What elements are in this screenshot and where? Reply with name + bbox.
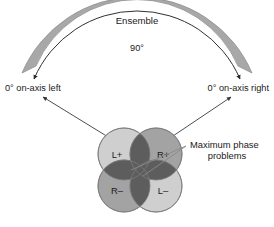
lobe-label-bottom-right: L–: [158, 185, 169, 196]
lobe-label-top-left: L+: [112, 149, 123, 160]
on-axis-left-label: 0° on-axis left: [5, 83, 61, 93]
callout-line-2: problems: [208, 150, 247, 161]
callout-line-1: Maximum phase: [190, 139, 259, 150]
driver-lobe-cluster: L+ R+ R– L–: [98, 128, 182, 212]
pointer-arrow-right: [167, 97, 231, 140]
ensemble-label: Ensemble: [116, 15, 159, 26]
pointer-arrow-left: [43, 97, 113, 140]
speaker-coverage-diagram: Ensemble 90° 0° on-axis left 0° on-axis …: [0, 0, 274, 227]
lobe-label-bottom-left: R–: [111, 185, 124, 196]
on-axis-right-label: 0° on-axis right: [208, 83, 270, 93]
diagram-canvas: Ensemble 90° 0° on-axis left 0° on-axis …: [0, 0, 274, 227]
coverage-angle-label: 90°: [130, 43, 144, 53]
